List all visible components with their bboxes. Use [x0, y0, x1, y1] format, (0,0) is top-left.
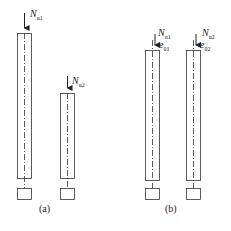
caption-b: (b)	[165, 203, 177, 214]
column-a2	[61, 76, 75, 200]
column-b2	[187, 34, 201, 200]
column-a1	[18, 13, 32, 200]
eccentricity-label-b2: e02	[200, 40, 210, 52]
load-label-a1: Nu1	[30, 9, 43, 21]
column-b1	[146, 34, 160, 200]
load-label-a2: Nu2	[72, 76, 85, 88]
eccentricity-label-b1: e01	[159, 40, 169, 52]
caption-a: (a)	[39, 203, 50, 214]
column-diagram	[0, 0, 231, 231]
